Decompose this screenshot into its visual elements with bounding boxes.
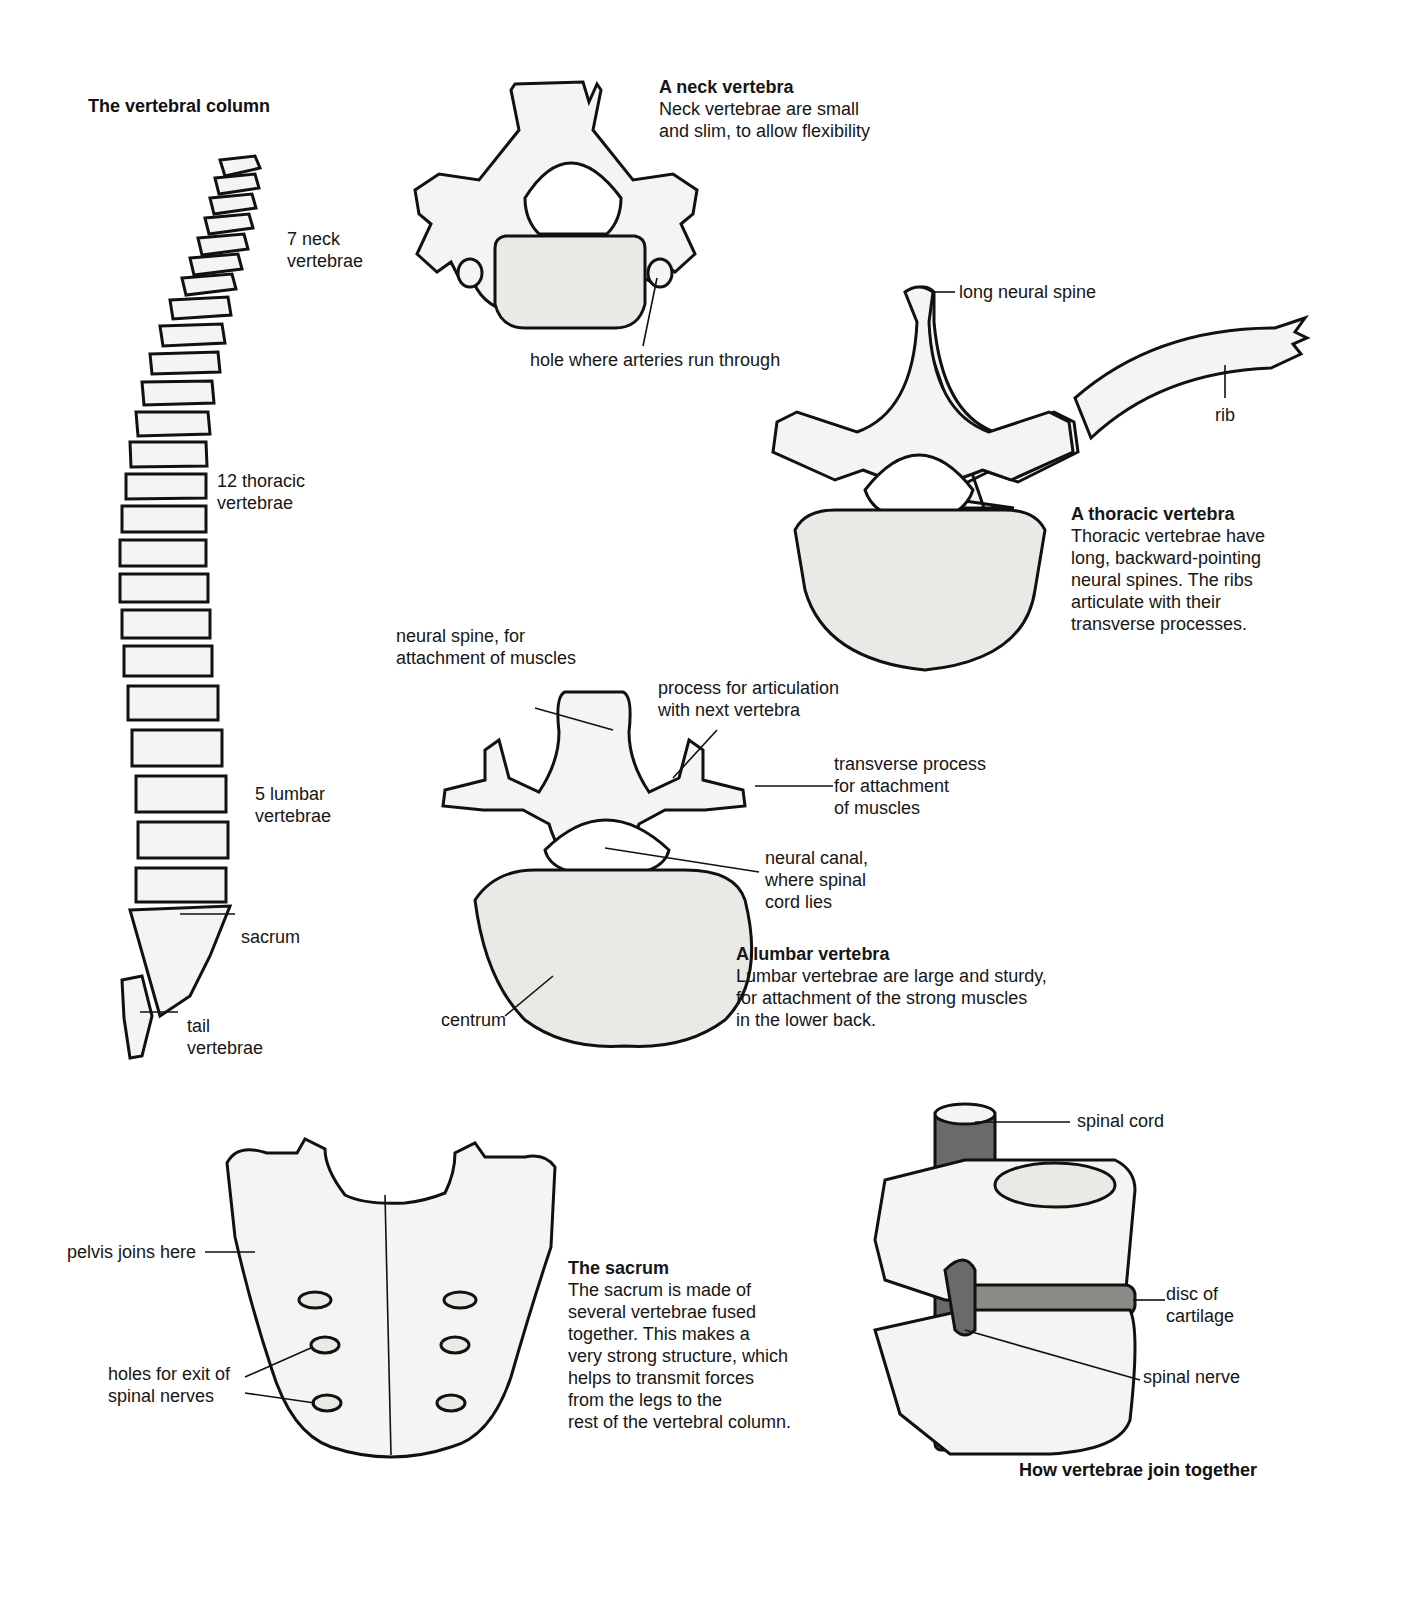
label-spinal-cord: spinal cord [1077,1110,1164,1132]
label-hole-arteries: hole where arteries run through [530,349,780,371]
label-pelvis-joins: pelvis joins here [67,1241,196,1263]
lumbar-vertebra-caption: A lumbar vertebra Lumbar vertebrae are l… [736,943,1047,1031]
thoracic-vertebra-caption: A thoracic vertebra Thoracic vertebrae h… [1071,503,1265,635]
lumbar-vertebra-title: A lumbar vertebra [736,943,1047,965]
label-lumbar-vertebrae: 5 lumbar vertebrae [255,783,331,827]
sacrum-caption: The sacrum The sacrum is made of several… [568,1257,791,1433]
joining-title: How vertebrae join together [1019,1459,1257,1481]
sacrum-description: The sacrum is made of several vertebrae … [568,1279,791,1433]
label-rib: rib [1215,404,1235,426]
label-tail-vertebrae: tail vertebrae [187,1015,263,1059]
label-sacrum: sacrum [241,926,300,948]
label-thoracic-vertebrae: 12 thoracic vertebrae [217,470,305,514]
sacrum-illustration [215,1135,575,1475]
sacrum-title: The sacrum [568,1257,791,1279]
label-long-neural-spine: long neural spine [959,281,1096,303]
joining-vertebrae-illustration [845,1100,1145,1480]
neck-vertebra-illustration [415,78,735,358]
label-holes-spinal-nerves: holes for exit of spinal nerves [108,1363,230,1407]
vertebral-column-illustration [70,150,370,1070]
label-neck-vertebrae: 7 neck vertebrae [287,228,363,272]
thoracic-vertebra-description: Thoracic vertebrae have long, backward-p… [1071,525,1265,635]
label-neural-spine: neural spine, for attachment of muscles [396,625,576,669]
label-disc-cartilage: disc of cartilage [1166,1283,1234,1327]
thoracic-vertebra-title: A thoracic vertebra [1071,503,1265,525]
lumbar-vertebra-description: Lumbar vertebrae are large and sturdy, f… [736,965,1047,1031]
vertebral-column-title: The vertebral column [88,95,270,117]
label-spinal-nerve: spinal nerve [1143,1366,1240,1388]
label-transverse-process: transverse process for attachment of mus… [834,753,986,819]
